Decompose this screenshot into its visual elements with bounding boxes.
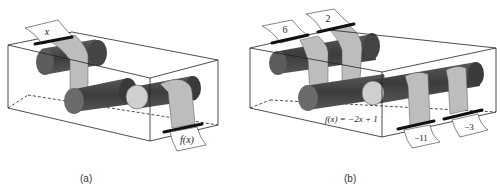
input-value-b-2: 2: [326, 13, 331, 24]
function-machine-diagram: x f(x): [0, 0, 500, 191]
output-card-a: f(x): [164, 124, 206, 151]
input-value-b-1: 6: [283, 24, 288, 35]
caption-b: (b): [344, 173, 356, 184]
input-label-a: x: [44, 26, 50, 37]
panel-a-machine: x f(x): [8, 20, 218, 151]
panel-b-machine: 6 2 f(x) = −2x + 1 −11 −3: [250, 9, 496, 148]
output-value-b-1: −11: [414, 133, 428, 143]
caption-a: (a): [80, 173, 92, 184]
output-value-b-2: −3: [464, 122, 474, 132]
output-card-b-1: −11: [398, 121, 440, 148]
function-rule-label: f(x) = −2x + 1: [325, 114, 378, 124]
output-label-a: f(x): [180, 134, 195, 146]
